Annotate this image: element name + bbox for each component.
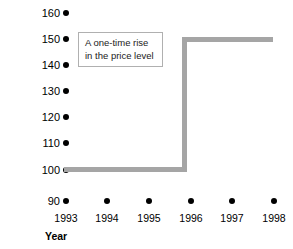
x-tick-label: 1997 <box>212 212 252 224</box>
step-line-lower-segment <box>64 167 187 172</box>
y-tick-label: 90 <box>34 196 60 207</box>
annotation-line-1: A one-time rise <box>85 37 157 50</box>
x-tick-label: 1993 <box>46 212 86 224</box>
y-tick-label: 160 <box>34 8 60 19</box>
y-tick-label: 120 <box>34 112 60 123</box>
price-level-step-chart: Price level (1995 = 100) 160 150 140 130… <box>0 0 293 249</box>
y-axis-marker-dot <box>63 10 69 16</box>
annotation-callout: A one-time rise in the price level <box>78 32 163 67</box>
y-tick-label: 140 <box>34 60 60 71</box>
y-axis-marker-dot <box>63 88 69 94</box>
x-tick-label: 1996 <box>171 212 211 224</box>
step-line-upper-segment <box>182 37 273 42</box>
x-axis-title: Year <box>45 230 67 242</box>
x-axis-marker-dot <box>146 198 152 204</box>
x-axis-marker-dot <box>104 198 110 204</box>
x-tick-label: 1994 <box>87 212 127 224</box>
y-axis-marker-dot <box>63 62 69 68</box>
y-tick-label: 150 <box>34 34 60 45</box>
x-axis-marker-dot <box>271 198 277 204</box>
y-axis-marker-dot <box>63 140 69 146</box>
x-tick-label: 1995 <box>129 212 169 224</box>
step-line-vertical-rise <box>182 37 187 172</box>
x-axis-marker-dot <box>229 198 235 204</box>
y-tick-label: 110 <box>34 138 60 149</box>
y-tick-label: 130 <box>34 86 60 97</box>
x-tick-label: 1998 <box>254 212 293 224</box>
x-axis-marker-dot <box>63 198 69 204</box>
y-axis-marker-dot <box>63 114 69 120</box>
y-axis-marker-dot <box>63 36 69 42</box>
annotation-line-2: in the price level <box>85 50 157 63</box>
x-axis-marker-dot <box>188 198 194 204</box>
y-tick-label: 100 <box>34 165 60 176</box>
